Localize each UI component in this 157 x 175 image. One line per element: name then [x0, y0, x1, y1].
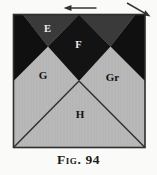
label-g: G: [39, 69, 48, 81]
label-f: F: [75, 39, 81, 50]
diagram-canvas: E F G Gr H: [0, 0, 157, 175]
label-e: E: [44, 23, 51, 34]
left-arrow-icon: [64, 5, 97, 11]
label-gr: Gr: [106, 71, 120, 83]
figure-caption: Fig. 94: [0, 152, 157, 168]
label-h: H: [76, 108, 85, 120]
figure-94: E F G Gr H Fig. 94: [0, 0, 157, 175]
